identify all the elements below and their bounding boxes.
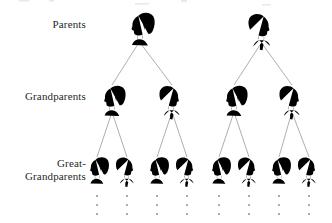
row-label-great-grandparents: Great- Grandparents: [0, 157, 86, 182]
parents-row: [132, 13, 271, 51]
diagram-canvas: [0, 0, 332, 223]
person-great-grandparent-female: [90, 157, 109, 184]
person-great-grandparent-female: [272, 157, 291, 184]
grandparents-row: [104, 86, 299, 120]
person-great-grandparent-female: [150, 157, 169, 184]
ancestry-tree-diagram: Parents Grandparents Great- Grandparents: [0, 0, 332, 223]
person-great-grandparent-male: [298, 157, 316, 187]
top-edge-artifact: [19, 0, 271, 6]
continuation-dots: [96, 195, 310, 215]
person-parent-female: [132, 13, 155, 46]
row-label-great-grandparents-line1: Great-: [0, 157, 86, 170]
person-grandparent-male: [279, 86, 299, 120]
row-label-parents: Parents: [0, 18, 86, 31]
person-grandparent-female: [104, 86, 125, 116]
edges-parents-to-grandparents: [112, 44, 292, 85]
row-label-great-grandparents-line2: Grandparents: [0, 170, 86, 183]
person-grandparent-male: [159, 86, 179, 120]
row-label-grandparents: Grandparents: [0, 90, 86, 103]
person-great-grandparent-female: [212, 157, 231, 184]
person-great-grandparent-male: [238, 157, 256, 187]
person-great-grandparent-male: [116, 157, 134, 187]
great-grandparents-row: [90, 157, 316, 187]
person-great-grandparent-male: [176, 157, 194, 187]
person-parent-male: [248, 14, 270, 50]
person-grandparent-female: [226, 86, 247, 116]
edges-grandparents-to-great-grandparents: [97, 115, 309, 157]
